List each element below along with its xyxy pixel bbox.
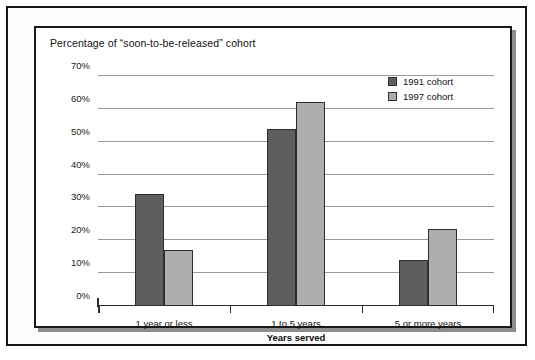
y-axis-tick-label: 20% — [71, 224, 90, 235]
y-axis-tick-label: 60% — [71, 92, 90, 103]
y-axis-tick-label: 70% — [71, 60, 90, 71]
x-axis-tick — [98, 306, 100, 313]
plot-area: Years served 0%10%20%30%40%50%60%70%1 ye… — [98, 76, 494, 306]
bar-0-2 — [399, 260, 427, 306]
x-axis-tick — [493, 306, 495, 313]
x-axis-category-label: 1 to 5 years — [271, 318, 321, 329]
bar-group — [362, 76, 494, 306]
bar-group — [230, 76, 362, 306]
chart-frame: Percentage of “soon-to-be-released” coho… — [34, 26, 512, 328]
scanned-page-border: Percentage of “soon-to-be-released” coho… — [6, 6, 527, 346]
y-axis-tick-label: 10% — [71, 257, 90, 268]
bar-0-0 — [135, 194, 163, 306]
bar-1-0 — [164, 250, 192, 306]
bar-0-1 — [267, 129, 295, 306]
x-axis-category-label: 5 or more years — [395, 318, 462, 329]
chart-title: Percentage of “soon-to-be-released” coho… — [50, 37, 256, 49]
x-axis-title: Years served — [267, 332, 326, 343]
bar-1-2 — [428, 229, 456, 306]
x-axis-tick — [230, 306, 232, 313]
bar-1-1 — [296, 102, 324, 306]
bar-group — [98, 76, 230, 306]
x-axis-category-label: 1 year or less — [135, 318, 192, 329]
y-axis-tick-label: 50% — [71, 125, 90, 136]
x-axis-tick — [362, 306, 364, 313]
y-axis-tick-label: 40% — [71, 158, 90, 169]
y-axis-tick-label: 30% — [71, 191, 90, 202]
y-axis-tick-label: 0% — [76, 290, 90, 301]
